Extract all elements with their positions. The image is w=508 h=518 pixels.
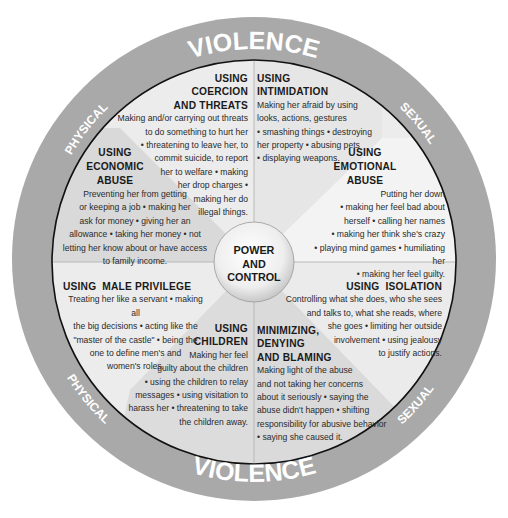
sector-emotional-text: USING EMOTIONAL ABUSE Putting her down •… (305, 146, 445, 282)
sector-intimidation-title: USING INTIMIDATION (257, 72, 387, 99)
sector-minimizing-body: Making light of the abuse and not taking… (257, 364, 397, 444)
sector-coercion-title: USING COERCION AND THREATS (140, 72, 248, 112)
hub-label: POWER AND CONTROL (216, 244, 292, 285)
sector-economic-body: Preventing her from getting or keeping a… (60, 188, 210, 268)
sector-economic-title: USING ECONOMIC ABUSE (70, 146, 160, 188)
sector-male-privilege-title: USING MALE PRIVILEGE (63, 280, 233, 293)
sector-emotional-title: USING EMOTIONAL ABUSE (315, 146, 415, 188)
sector-minimizing-title: MINIMIZING, DENYING AND BLAMING (257, 324, 397, 364)
sector-male-privilege-body: Treating her like a servant • making all… (63, 293, 208, 373)
sector-male-privilege-text: USING MALE PRIVILEGE Treating her like a… (63, 280, 233, 374)
sector-minimizing-text: MINIMIZING, DENYING AND BLAMING Making l… (257, 324, 397, 445)
sector-emotional-body: Putting her down • making her feel bad a… (305, 188, 445, 282)
sector-isolation-title: USING ISOLATION (290, 280, 442, 293)
sector-economic-text: USING ECONOMIC ABUSE Preventing her from… (60, 146, 210, 268)
